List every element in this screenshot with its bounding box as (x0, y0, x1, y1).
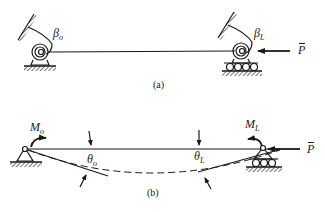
pin-support-left (24, 60, 56, 71)
theta-o-arrow-top (89, 131, 91, 145)
moment-arrow-left (31, 138, 46, 147)
moment-arrow-right (248, 139, 262, 146)
beam-diagram: βo βL P (a) Mo ML θo θL P (b) (0, 0, 325, 212)
label-beta-o: βo (53, 27, 63, 42)
label-load-P-a: P (298, 44, 305, 56)
theta-L-arrow-bottom (205, 178, 211, 189)
label-load-P-b: P (307, 143, 314, 155)
label-theta-o: θo (87, 153, 97, 168)
right-wall-anchor (218, 12, 252, 53)
label-moment-o: Mo (30, 121, 44, 136)
label-moment-L: ML (245, 118, 259, 133)
label-beta-L: βL (254, 27, 264, 42)
beam-a (48, 51, 235, 52)
caption-b: (b) (147, 188, 159, 198)
rotational-spring-left (32, 44, 48, 60)
caption-a: (a) (153, 80, 164, 90)
deflected-shape-dashed (28, 150, 280, 173)
panel-b (10, 130, 300, 189)
label-theta-L: θL (194, 150, 204, 165)
diagram-canvas (0, 0, 325, 212)
pin-support-left-b (10, 147, 42, 168)
roller-support-right (222, 59, 262, 76)
panel-a (18, 12, 290, 76)
theta-o-arrow-bottom (80, 175, 86, 187)
rotational-spring-right (233, 43, 249, 59)
